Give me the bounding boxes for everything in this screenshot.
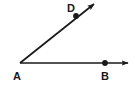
point-label-a: A [13,70,21,82]
point-label-b: B [101,70,109,82]
ray-ad-line [20,4,94,63]
point-label-d: D [67,2,75,14]
geometry-canvas: A B D [0,0,136,88]
point-b-dot [102,60,108,66]
geometry-figure: A B D [0,0,136,88]
